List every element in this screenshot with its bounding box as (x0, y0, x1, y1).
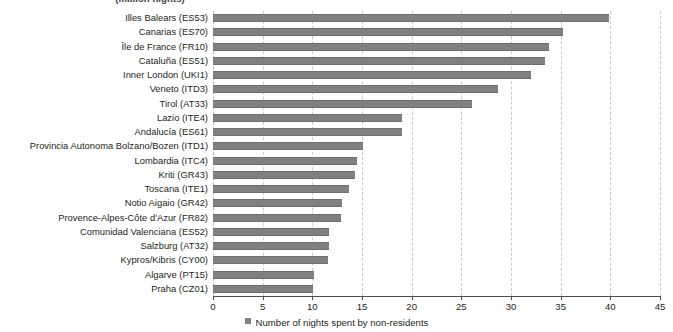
bar-row[interactable] (213, 125, 660, 139)
tick-mark-10 (312, 296, 313, 300)
legend-swatch-icon (245, 318, 251, 324)
bar[interactable] (213, 28, 563, 36)
legend-label: Number of nights spent by non-residents (256, 317, 429, 328)
bar-row[interactable] (213, 182, 660, 196)
x-axis-ticks: 051015202530354045 (213, 296, 661, 312)
tick-mark-40 (610, 296, 611, 300)
category-label: Notio Aigaio (GR42) (0, 196, 208, 210)
bar-row[interactable] (213, 68, 660, 82)
tick-mark-45 (660, 296, 661, 300)
tick-label-15: 15 (342, 301, 382, 312)
tick-mark-25 (461, 296, 462, 300)
bar[interactable] (213, 199, 342, 207)
category-label: Comunidad Valenciana (ES52) (0, 225, 208, 239)
category-label: Île de France (FR10) (0, 40, 208, 54)
category-label: Provence-Alpes-Côte d'Azur (FR82) (0, 211, 208, 225)
category-label: Toscana (ITE1) (0, 182, 208, 196)
tick-label-5: 5 (243, 301, 283, 312)
tick-label-40: 40 (590, 301, 630, 312)
bar-row[interactable] (213, 40, 660, 54)
bar[interactable] (213, 214, 341, 222)
category-label: Provincia Autonoma Bolzano/Bozen (ITD1) (0, 139, 208, 153)
bar-row[interactable] (213, 239, 660, 253)
bar-row[interactable] (213, 211, 660, 225)
category-label: Inner London (UKI1) (0, 68, 208, 82)
category-label: Cataluña (ES51) (0, 54, 208, 68)
tick-mark-35 (561, 296, 562, 300)
tick-label-30: 30 (491, 301, 531, 312)
bar-series (213, 11, 660, 296)
bar[interactable] (213, 157, 357, 165)
gridline-45 (660, 11, 661, 296)
bar[interactable] (213, 57, 545, 65)
bar-row[interactable] (213, 82, 660, 96)
bar-row[interactable] (213, 139, 660, 153)
category-label: Canarias (ES70) (0, 25, 208, 39)
bar[interactable] (213, 285, 313, 293)
bar-row[interactable] (213, 111, 660, 125)
bar[interactable] (213, 85, 498, 93)
bar-row[interactable] (213, 282, 660, 296)
bar[interactable] (213, 242, 329, 250)
category-label: Veneto (ITD3) (0, 82, 208, 96)
category-label: Lombardia (ITC4) (0, 154, 208, 168)
tick-mark-0 (213, 296, 214, 300)
category-label: Kriti (GR43) (0, 168, 208, 182)
bar[interactable] (213, 185, 349, 193)
bar[interactable] (213, 271, 314, 279)
tick-mark-15 (362, 296, 363, 300)
category-label: Lazio (ITE4) (0, 111, 208, 125)
bar-row[interactable] (213, 253, 660, 267)
chart-title: (million nights) (0, 0, 300, 7)
tick-label-25: 25 (441, 301, 481, 312)
bar-chart: (million nights) Illes Balears (ES53)Can… (0, 0, 673, 332)
category-label: Andalucía (ES61) (0, 125, 208, 139)
tick-mark-20 (412, 296, 413, 300)
bar[interactable] (213, 171, 355, 179)
category-label: Kypros/Kibris (CY00) (0, 253, 208, 267)
bar[interactable] (213, 43, 549, 51)
bar[interactable] (213, 71, 531, 79)
bar-row[interactable] (213, 97, 660, 111)
category-label: Praha (CZ01) (0, 282, 208, 296)
legend: Number of nights spent by non-residents (0, 316, 673, 328)
category-axis-labels: Illes Balears (ES53)Canarias (ES70)Île d… (0, 11, 208, 296)
tick-label-10: 10 (292, 301, 332, 312)
bar[interactable] (213, 128, 402, 136)
bar-row[interactable] (213, 11, 660, 25)
bar-row[interactable] (213, 154, 660, 168)
bar[interactable] (213, 100, 472, 108)
tick-label-45: 45 (640, 301, 673, 312)
bar[interactable] (213, 142, 363, 150)
tick-label-35: 35 (541, 301, 581, 312)
bar[interactable] (213, 256, 328, 264)
bar-row[interactable] (213, 225, 660, 239)
category-label: Tirol (AT33) (0, 97, 208, 111)
tick-label-20: 20 (392, 301, 432, 312)
bar[interactable] (213, 14, 609, 22)
category-label: Algarve (PT15) (0, 268, 208, 282)
bar-row[interactable] (213, 196, 660, 210)
bar-row[interactable] (213, 54, 660, 68)
tick-mark-5 (263, 296, 264, 300)
bar-row[interactable] (213, 25, 660, 39)
tick-label-0: 0 (193, 301, 233, 312)
plot-area (213, 11, 660, 296)
category-label: Illes Balears (ES53) (0, 11, 208, 25)
tick-mark-30 (511, 296, 512, 300)
category-label: Salzburg (AT32) (0, 239, 208, 253)
bar[interactable] (213, 228, 329, 236)
bar[interactable] (213, 114, 402, 122)
bar-row[interactable] (213, 268, 660, 282)
bar-row[interactable] (213, 168, 660, 182)
